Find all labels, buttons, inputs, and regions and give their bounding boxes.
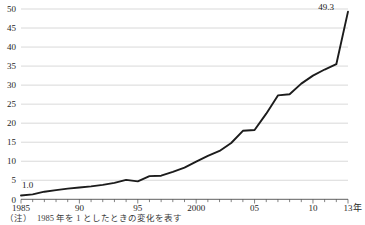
x-tick-label-05: 05 <box>250 203 260 213</box>
y-tick-label-45: 45 <box>7 23 17 33</box>
x-tick-label-2000: 2000 <box>187 203 206 213</box>
y-axis-tick-labels: 05101520253035404550 <box>7 4 17 204</box>
y-tick-label-50: 50 <box>7 4 17 14</box>
last-point-label: 49.3 <box>318 2 334 12</box>
y-tick-label-5: 5 <box>12 175 17 185</box>
x-axis-tick-labels: 198590952000051013 <box>12 203 353 213</box>
x-tick-label-1985: 1985 <box>12 203 31 213</box>
first-point-label: 1.0 <box>22 180 34 190</box>
x-axis-tickmarks <box>21 199 348 203</box>
y-tick-label-40: 40 <box>7 42 17 52</box>
data-series-line <box>21 12 348 196</box>
chart-footnote: （注） 1985 年を 1 としたときの変化を表す <box>5 213 182 224</box>
line-chart: 05101520253035404550 198590952000051013 … <box>0 0 365 225</box>
gridlines-group <box>21 9 348 180</box>
y-tick-label-10: 10 <box>7 156 17 166</box>
y-tick-label-20: 20 <box>7 118 17 128</box>
y-tick-label-35: 35 <box>7 61 17 71</box>
y-tick-label-25: 25 <box>7 99 17 109</box>
x-tick-label-95: 95 <box>133 203 143 213</box>
x-axis-unit-label: 年 <box>353 202 362 213</box>
y-tick-label-15: 15 <box>7 137 17 147</box>
chart-figure: 05101520253035404550 198590952000051013 … <box>0 0 365 225</box>
y-tick-label-30: 30 <box>7 80 17 90</box>
x-tick-label-90: 90 <box>75 203 85 213</box>
x-tick-label-10: 10 <box>308 203 318 213</box>
